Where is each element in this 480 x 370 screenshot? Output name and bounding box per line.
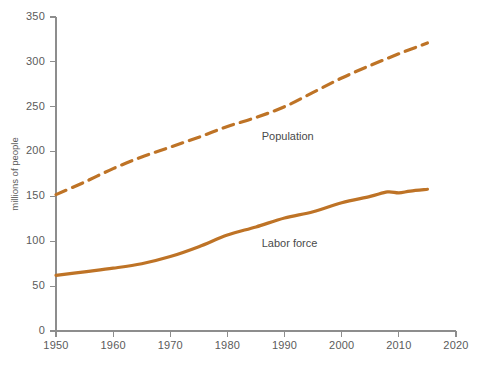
x-tick-label: 1960 (101, 339, 126, 351)
y-axis-title: millions of people (9, 137, 20, 210)
x-tick-label: 1990 (272, 339, 297, 351)
y-tick-label: 100 (26, 234, 45, 246)
y-axis-ticks: 050100150200250300350 (26, 10, 56, 336)
axis-lines (56, 17, 456, 331)
y-tick-label: 50 (32, 279, 45, 291)
line-chart: 050100150200250300350 195019601970198019… (0, 0, 480, 370)
x-tick-label: 2000 (329, 339, 354, 351)
y-tick-label: 350 (26, 10, 45, 22)
y-tick-label: 150 (26, 189, 45, 201)
x-axis-ticks: 19501960197019801990200020102020 (43, 331, 468, 351)
x-tick-label: 1980 (215, 339, 240, 351)
y-tick-label: 250 (26, 100, 45, 112)
series-label-labor-force: Labor force (262, 237, 318, 249)
series-labels-group: PopulationLabor force (262, 130, 318, 249)
chart-container: 050100150200250300350 195019601970198019… (0, 0, 480, 370)
series-line-labor-force (56, 189, 427, 275)
y-tick-label: 0 (39, 324, 45, 336)
series-label-population: Population (262, 130, 314, 142)
y-tick-label: 300 (26, 55, 45, 67)
series-line-population (56, 43, 427, 195)
y-tick-label: 200 (26, 144, 45, 156)
x-tick-label: 2020 (443, 339, 468, 351)
x-tick-label: 1950 (43, 339, 68, 351)
x-tick-label: 2010 (386, 339, 411, 351)
data-series-group (56, 43, 427, 275)
x-tick-label: 1970 (158, 339, 183, 351)
